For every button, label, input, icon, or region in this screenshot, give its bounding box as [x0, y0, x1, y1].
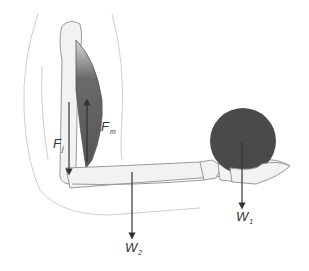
label-ball-weight: W1 — [236, 210, 253, 225]
arm-lever-diagram: Fm Fj W1 W2 — [0, 0, 309, 271]
label-forearm-weight: W2 — [125, 241, 142, 256]
biceps-muscle — [76, 40, 102, 168]
arm-illustration — [0, 0, 309, 271]
label-joint-force: Fj — [53, 137, 64, 152]
label-muscle-force: Fm — [101, 120, 116, 135]
